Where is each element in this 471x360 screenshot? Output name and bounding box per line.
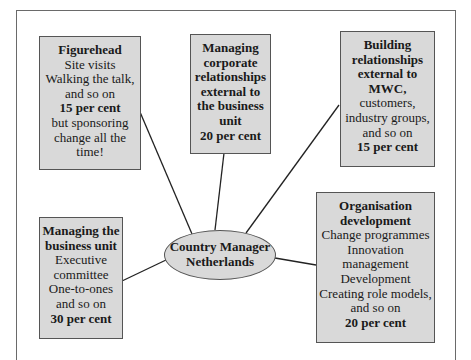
box-line: Innovation <box>317 243 434 258</box>
box-line: Creating role models, <box>317 287 434 302</box>
box-percent: 15 per cent <box>341 140 434 155</box>
box-line: change all the <box>40 131 140 146</box>
box-line: corporate <box>191 56 270 71</box>
box-line: Managing <box>191 41 270 56</box>
center-label-line: Netherlands <box>165 255 275 270</box>
box-percent: 30 per cent <box>40 312 122 327</box>
box-line: Figurehead <box>40 43 140 58</box>
box-line: customers, <box>341 96 434 111</box>
box-line: Change programmes <box>317 228 434 243</box>
box-percent: 20 per cent <box>317 316 434 331</box>
connector-corporate-relationships <box>215 153 224 230</box>
box-line: and so on <box>341 126 434 141</box>
box-line: management <box>317 257 434 272</box>
box-percent: 15 per cent <box>40 101 140 116</box>
box-line: Building <box>341 38 434 53</box>
connector-organisation-development <box>275 258 316 265</box>
box-line: MWC, <box>341 82 434 97</box>
connector-figurehead <box>140 112 192 234</box>
box-line: committee <box>40 268 122 283</box>
box-line: Organisation <box>317 199 434 214</box>
box-business-unit: Managing the business unit Executive com… <box>39 217 123 339</box>
box-line: development <box>317 214 434 229</box>
box-line: but sponsoring <box>40 116 140 131</box>
box-line: Executive <box>40 253 122 268</box>
box-line: external to <box>341 67 434 82</box>
box-line: Site visits <box>40 58 140 73</box>
box-line: industry groups, <box>341 111 434 126</box>
box-line: unit <box>191 114 270 129</box>
box-organisation-development: Organisation development Change programm… <box>316 192 435 343</box>
center-label-line: Country Manager <box>165 240 275 255</box>
box-figurehead: Figurehead Site visits Walking the talk,… <box>39 36 141 170</box>
box-line: relationships <box>191 70 270 85</box>
center-node-country-manager: Country Manager Netherlands <box>164 230 276 280</box>
box-external-relationships: Building relationships external to MWC, … <box>340 31 435 167</box>
box-line: external to <box>191 85 270 100</box>
box-percent: 20 per cent <box>191 129 270 144</box>
connector-business-unit <box>122 260 166 281</box>
box-corporate-relationships: Managing corporate relationships externa… <box>190 34 271 154</box>
box-line: and so on <box>317 301 434 316</box>
box-line: Managing the <box>40 224 122 239</box>
box-line: Development <box>317 272 434 287</box>
box-line: business unit <box>40 239 122 254</box>
box-line: and so on <box>40 87 140 102</box>
box-line: One-to-ones <box>40 282 122 297</box>
box-line: relationships <box>341 53 434 68</box>
box-line: Walking the talk, <box>40 72 140 87</box>
box-line: the business <box>191 99 270 114</box>
box-line: and so on <box>40 297 122 312</box>
box-line: time! <box>40 145 140 160</box>
